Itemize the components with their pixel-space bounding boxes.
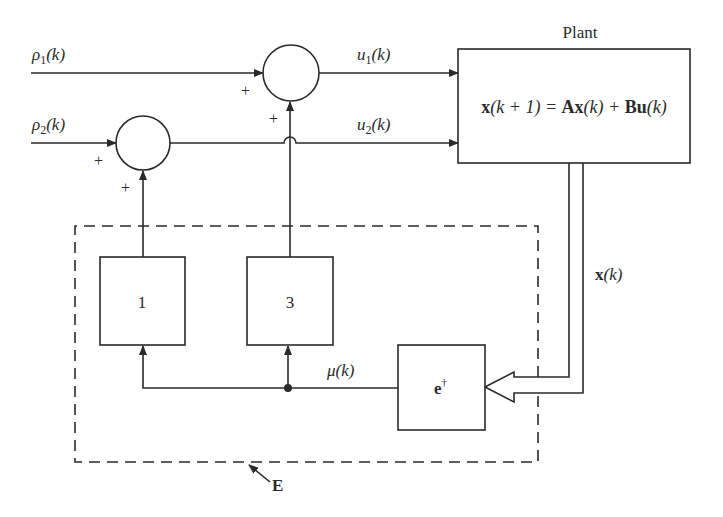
rho1-label: ρ1(k) [31,45,65,67]
state-bus-inner [485,163,569,387]
plus-sign-top-bottom: + [269,110,278,127]
group-E-pointer [249,465,270,482]
group-E-boundary [75,226,538,462]
plus-sign-bottom-bottom: + [121,179,130,196]
state-label: x(k) [595,265,623,284]
plus-sign-top-left: + [241,82,250,99]
u2-signal-line [170,137,458,143]
mu-label: μ(k) [326,361,355,380]
group-E-label: E [272,476,283,495]
u2-label: u2(k) [357,115,391,137]
plus-sign-bottom-left: + [94,152,103,169]
block-diagram: ρ1(k) ρ2(k) u1(k) u2(k) + + + + Plant x(… [0,0,723,517]
summing-junction-top [263,45,319,101]
encoder-block-label: e† [434,376,448,398]
u1-label: u1(k) [357,45,391,67]
summing-junction-bottom [116,116,170,170]
plant-equation: x(k + 1) = Ax(k) + Bu(k) [481,97,666,118]
mu-signal-line [143,346,398,388]
junction-dot [284,384,292,392]
gain-block-3-label: 3 [286,293,295,312]
rho2-label: ρ2(k) [31,115,65,137]
gain-block-1-label: 1 [138,293,147,312]
plant-title: Plant [563,23,598,42]
